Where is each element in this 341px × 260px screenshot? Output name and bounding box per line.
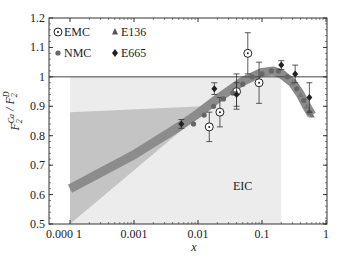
emc-point-dot [219,111,221,113]
legend-label: NMC [64,46,91,60]
emc-point-dot [258,82,260,84]
y-tick-label: 1.2 [30,11,45,25]
y-tick-label: 0.5 [30,217,45,231]
nmc-point [221,96,226,101]
legend-e136-marker [112,28,118,35]
nmc-point [259,71,264,76]
y-tick-label: 0.6 [30,188,45,202]
legend-e665-marker [112,49,118,57]
nmc-point [249,74,254,79]
x-tick-label: 0.1 [255,227,270,241]
nmc-point [301,98,306,103]
x-tick-label: 0.01 [188,227,209,241]
x-tick-label: 1 [323,227,329,241]
e665-point [278,62,284,69]
y-axis-label: F2Ca / F2D [2,91,24,131]
legend-label: E665 [121,46,146,60]
legend-label: EMC [64,25,90,39]
nmc-point [240,82,245,87]
chart: 0.50.60.70.80.911.11.20.000 10.0010.010.… [0,0,341,260]
x-tick-label: 0.001 [121,227,148,241]
emc-point-dot [247,52,249,54]
x-tick-label: 0.000 1 [46,227,82,241]
nmc-point [211,104,216,109]
y-tick-label: 0.7 [30,158,45,172]
nmc-point [285,74,290,79]
y-tick-label: 1.1 [30,40,45,54]
x-axis-label: x [190,240,197,254]
nmc-point [269,68,274,73]
nmc-point [191,121,196,126]
y-tick-label: 0.8 [30,129,45,143]
y-tick-label: 0.9 [30,99,45,113]
legend-label: E136 [121,25,146,39]
legend-nmc-marker [55,50,60,55]
nmc-point [294,86,299,91]
eic-annotation: EIC [233,179,252,193]
legend-emc-marker-dot [57,31,59,33]
y-tick-label: 1 [39,70,45,84]
nmc-point [202,113,207,118]
emc-point-dot [208,126,210,128]
